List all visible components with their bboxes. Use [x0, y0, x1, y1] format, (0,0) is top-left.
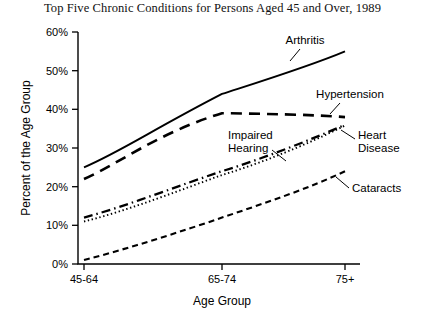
- y-tick-label-10: 10%: [46, 219, 68, 231]
- series-label-heart-disease-2: Disease: [358, 142, 400, 154]
- y-tick-label-60: 60%: [46, 26, 68, 38]
- series-label-impaired-hearing-1: Impaired: [228, 129, 273, 141]
- leader-cataracts: [336, 177, 349, 188]
- series-label-cataracts: Cataracts: [352, 182, 401, 194]
- series-line-hypertension: [84, 113, 345, 179]
- series-label-impaired-hearing-2: Hearing: [228, 142, 268, 154]
- series-label-arthritis: Arthritis: [286, 34, 325, 46]
- x-tick-marks: [84, 264, 345, 270]
- y-tick-labels: 0% 10% 20% 30% 40% 50% 60%: [46, 26, 68, 270]
- series-label-heart-disease-1: Heart: [358, 129, 387, 141]
- y-tick-marks: [72, 32, 78, 264]
- x-tick-label-45-64: 45-64: [70, 273, 98, 285]
- series-line-arthritis: [84, 51, 345, 167]
- y-tick-label-30: 30%: [46, 142, 68, 154]
- series-line-cataracts: [84, 171, 345, 260]
- y-axis-title: Percent of the Age Group: [19, 80, 33, 216]
- axis-group: [78, 32, 360, 264]
- y-tick-label-20: 20%: [46, 181, 68, 193]
- x-axis-title: Age Group: [193, 294, 251, 308]
- y-tick-label-50: 50%: [46, 65, 68, 77]
- line-chart-canvas: 0% 10% 20% 30% 40% 50% 60% 45-64 65-74 7…: [0, 0, 425, 317]
- leader-heart-disease: [341, 130, 355, 139]
- leader-arthritis: [290, 49, 300, 61]
- x-tick-labels: 45-64 65-74 75+: [70, 273, 354, 285]
- series-line-impaired-hearing: [84, 125, 345, 218]
- y-tick-label-0: 0%: [52, 258, 68, 270]
- x-tick-label-75plus: 75+: [336, 273, 355, 285]
- leader-hypertension: [330, 103, 340, 114]
- series-label-hypertension: Hypertension: [316, 88, 384, 100]
- y-tick-label-40: 40%: [46, 103, 68, 115]
- x-tick-label-65-74: 65-74: [208, 273, 236, 285]
- axis-lines: [78, 32, 360, 264]
- chart-figure: Top Five Chronic Conditions for Persons …: [0, 0, 425, 317]
